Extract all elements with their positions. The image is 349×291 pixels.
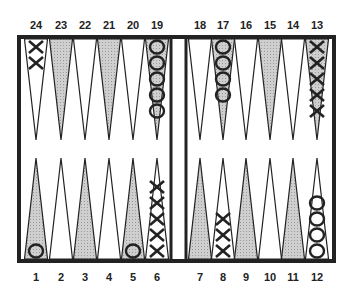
label-21: 21 [103, 19, 115, 31]
label-5: 5 [130, 271, 136, 283]
label-22: 22 [79, 19, 91, 31]
label-11: 11 [287, 271, 299, 283]
label-17: 17 [217, 19, 229, 31]
point-14 [282, 39, 305, 140]
point-16 [235, 39, 258, 140]
label-19: 19 [151, 19, 163, 31]
board-points [25, 39, 329, 259]
point-13 [306, 39, 329, 140]
point-3 [74, 158, 97, 259]
label-24: 24 [30, 19, 43, 31]
point-20 [122, 39, 145, 140]
point-4 [98, 158, 121, 259]
label-14: 14 [287, 19, 300, 31]
point-7 [189, 158, 212, 259]
label-15: 15 [264, 19, 276, 31]
label-3: 3 [82, 271, 88, 283]
label-10: 10 [264, 271, 276, 283]
label-18: 18 [194, 19, 206, 31]
point-15 [259, 39, 282, 140]
point-11 [282, 158, 305, 259]
point-24 [25, 39, 48, 140]
label-12: 12 [311, 271, 323, 283]
label-2: 2 [58, 271, 64, 283]
label-6: 6 [154, 271, 160, 283]
point-10 [259, 158, 282, 259]
label-7: 7 [197, 271, 203, 283]
label-8: 8 [220, 271, 226, 283]
label-9: 9 [243, 271, 249, 283]
checkers [29, 41, 324, 258]
point-2 [50, 158, 73, 259]
point-23 [50, 39, 73, 140]
label-23: 23 [55, 19, 67, 31]
point-8 [212, 158, 235, 259]
point-22 [74, 39, 97, 140]
label-4: 4 [106, 271, 113, 283]
point-6 [146, 158, 169, 259]
label-16: 16 [240, 19, 252, 31]
point-18 [189, 39, 212, 140]
point-9 [235, 158, 258, 259]
label-20: 20 [127, 19, 139, 31]
label-1: 1 [33, 271, 39, 283]
label-13: 13 [311, 19, 323, 31]
backgammon-board: 24 23 22 21 20 19 18 17 16 15 14 13 1 2 … [0, 0, 349, 291]
point-21 [98, 39, 121, 140]
